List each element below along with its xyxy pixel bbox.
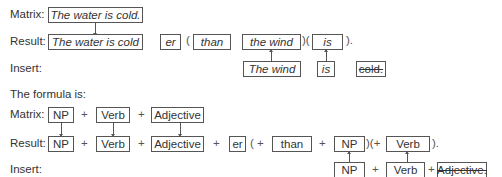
plus-sign: + [81, 108, 88, 120]
matrix-adjective-box: Adjective [151, 107, 204, 123]
is-box: is [312, 34, 343, 50]
plus-sign: + [138, 108, 145, 120]
result-np2-box: NP [334, 136, 365, 152]
mid-paren: )( [302, 34, 310, 46]
insert-adjective-deleted-box: Adjective. [437, 162, 487, 177]
matrix-label: Matrix: [10, 8, 45, 20]
plus-sign: + [213, 137, 220, 149]
formula-insert-label: Insert: [10, 163, 42, 175]
result-adjective-box: Adjective [151, 136, 204, 152]
open-paren-plus: ( + [250, 137, 264, 149]
arrow-up-icon [271, 50, 272, 61]
plus-sign: + [81, 137, 88, 149]
insert-the-wind-box: The wind [243, 61, 301, 77]
matrix-np-box: NP [48, 107, 74, 123]
plus-sign: + [319, 137, 326, 149]
result-er-box: er [229, 136, 246, 152]
result-sentence-box: The water is cold [48, 34, 143, 50]
formula-matrix-label: Matrix: [10, 108, 45, 120]
arrow-up-icon [326, 50, 327, 61]
arrow-down-icon [113, 123, 114, 136]
insert-label: Insert: [10, 62, 42, 74]
mid-paren-plus: )(+ [366, 137, 380, 149]
matrix-verb-box: Verb [96, 107, 130, 123]
plus-sign: + [138, 137, 145, 149]
close-paren: ). [346, 34, 353, 46]
open-paren: ( [186, 34, 190, 46]
plus-sign: + [372, 163, 379, 175]
insert-verb-box: Verb [386, 162, 425, 177]
arrow-up-icon [407, 152, 408, 162]
arrow-down-icon [61, 123, 62, 136]
matrix-sentence-box: The water is cold. [48, 7, 143, 23]
plus-sign: + [428, 163, 435, 175]
arrow-up-icon [349, 152, 350, 162]
close-paren: ). [432, 137, 439, 149]
result-verb-box: Verb [96, 136, 130, 152]
arrow-down-icon [180, 123, 181, 136]
result-label: Result: [10, 35, 46, 47]
the-wind-box: the wind [242, 34, 301, 50]
than-box: than [193, 34, 231, 50]
insert-is-box: is [317, 61, 335, 77]
formula-result-label: Result: [10, 137, 46, 149]
formula-heading: The formula is: [10, 88, 86, 100]
er-box: er [160, 34, 181, 50]
insert-cold-deleted-box: cold. [356, 61, 386, 77]
result-verb2-box: Verb [386, 136, 430, 152]
result-than-box: than [272, 136, 312, 152]
result-np-box: NP [48, 136, 74, 152]
insert-np-box: NP [334, 162, 365, 177]
